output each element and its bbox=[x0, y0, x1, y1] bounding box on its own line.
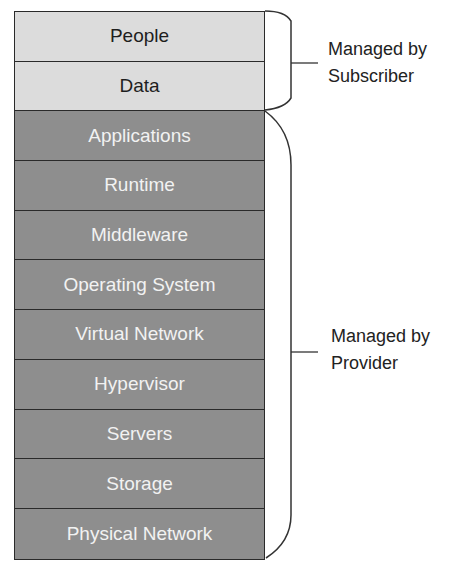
provider-label-line2: Provider bbox=[331, 350, 430, 377]
subscriber-bracket-icon bbox=[265, 11, 291, 110]
provider-label: Managed by Provider bbox=[331, 323, 430, 377]
provider-bracket-icon bbox=[265, 111, 291, 558]
subscriber-label-line2: Subscriber bbox=[328, 63, 427, 90]
subscriber-label-line1: Managed by bbox=[328, 36, 427, 63]
provider-label-line1: Managed by bbox=[331, 323, 430, 350]
subscriber-label: Managed by Subscriber bbox=[328, 36, 427, 90]
